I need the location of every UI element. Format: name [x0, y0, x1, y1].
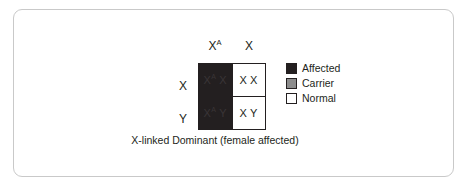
column-header-0-superscript: A: [217, 38, 222, 47]
legend-swatch-affected-icon: [286, 63, 297, 74]
column-header-1: X: [232, 40, 266, 52]
column-header-0: XA: [198, 40, 232, 52]
legend-label-affected: Affected: [302, 63, 340, 74]
row-header-0: X: [174, 80, 192, 92]
punnett-grid: XA X X X XA Y X Y: [198, 63, 266, 130]
punnett-cell-1-0-genotype: XA Y: [203, 108, 227, 119]
column-header-0-allele: X: [208, 39, 216, 53]
column-header-1-allele: X: [245, 39, 253, 53]
punnett-square-figure: XA X X Y XA X X X XA Y X Y: [0, 0, 468, 196]
legend-label-carrier: Carrier: [302, 78, 334, 89]
punnett-cell-1-1-genotype: X Y: [240, 108, 258, 119]
legend-item-affected: Affected: [286, 61, 340, 75]
legend-swatch-normal-icon: [286, 93, 297, 104]
punnett-cell-1-0: XA Y: [199, 97, 232, 129]
punnett-square: XA X X X XA Y X Y: [198, 63, 266, 130]
legend: Affected Carrier Normal: [286, 61, 340, 105]
legend-item-normal: Normal: [286, 91, 340, 105]
legend-item-carrier: Carrier: [286, 76, 340, 90]
row-header-1-allele: Y: [179, 112, 187, 126]
punnett-cell-1-1: X Y: [233, 97, 266, 129]
row-header-0-allele: X: [179, 79, 187, 93]
legend-swatch-carrier-icon: [286, 78, 297, 89]
punnett-cell-0-1: X X: [233, 64, 266, 96]
punnett-cell-0-0-genotype: XA X: [203, 75, 227, 86]
figure-caption: X-linked Dominant (female affected): [95, 135, 335, 147]
row-header-1: Y: [174, 113, 192, 125]
punnett-cell-0-1-genotype: X X: [240, 75, 258, 86]
legend-label-normal: Normal: [302, 93, 336, 104]
punnett-cell-0-0: XA X: [199, 64, 232, 96]
